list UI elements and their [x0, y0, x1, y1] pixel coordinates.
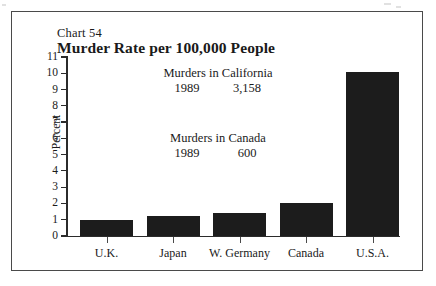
y-axis-tick-label: 2 — [38, 197, 58, 209]
y-axis-tick-label: 6 — [38, 132, 58, 144]
y-axis-tick-text: 9 — [38, 84, 58, 96]
y-axis-tick-label: 7 — [38, 116, 58, 128]
x-axis-tick — [373, 237, 374, 243]
y-axis-tick-text: 11 — [38, 51, 58, 63]
bar-japan — [147, 216, 200, 236]
bar-u-s-a — [346, 72, 399, 236]
scan-artifact — [2, 4, 6, 6]
y-axis-tick-text: 1 — [38, 214, 58, 226]
y-axis-tick — [61, 121, 67, 122]
y-axis-tick-label: 4 — [38, 165, 58, 177]
y-axis-tick-label: 0 — [38, 230, 58, 242]
annotation-canada-heading: Murders in Canada — [148, 131, 288, 146]
y-axis-tick — [61, 89, 67, 90]
y-axis-tick-label: 10 — [38, 67, 58, 79]
y-axis-tick — [61, 73, 67, 74]
y-axis-tick-text: 3 — [38, 181, 58, 193]
x-axis-label: U.S.A. — [356, 246, 389, 261]
annotation-california-value: 3,158 — [216, 81, 278, 96]
x-axis-label: Canada — [288, 246, 324, 261]
y-axis-tick-label: 8 — [38, 100, 58, 112]
scan-artifact — [396, 6, 401, 8]
x-axis-label: U.K. — [95, 246, 118, 261]
y-axis-tick-text: 10 — [38, 67, 58, 79]
y-axis-tick — [61, 235, 67, 236]
bar-u-k — [80, 220, 133, 236]
annotation-canada-value: 600 — [216, 146, 278, 161]
x-axis-tick — [240, 237, 241, 243]
y-axis-tick-label: 3 — [38, 181, 58, 193]
annotation-canada: Murders in Canada 1989600 — [148, 131, 288, 161]
y-axis-tick — [61, 56, 67, 57]
annotation-california-heading: Murders in California — [148, 66, 288, 81]
y-axis-tick-label: 5 — [38, 149, 58, 161]
y-axis-tick-text: 6 — [38, 132, 58, 144]
y-axis-tick — [61, 219, 67, 220]
page-title: Murder Rate per 100,000 People — [57, 39, 275, 57]
y-axis-tick — [61, 105, 67, 106]
y-axis-tick-text: 8 — [38, 100, 58, 112]
y-axis-tick-label: 1 — [38, 214, 58, 226]
bar-w-germany — [213, 213, 266, 236]
y-axis-tick-text: 4 — [38, 165, 58, 177]
y-axis-tick — [61, 203, 67, 204]
bar-canada — [280, 203, 333, 236]
y-axis-tick-label: 9 — [38, 84, 58, 96]
x-axis-label: Japan — [159, 246, 186, 261]
y-axis-tick-label: 11 — [38, 51, 58, 63]
y-axis-tick — [61, 187, 67, 188]
annotation-california-year: 1989 — [158, 81, 216, 96]
annotation-california: Murders in California 19893,158 — [148, 66, 288, 96]
x-axis-tick — [306, 237, 307, 243]
annotation-canada-year: 1989 — [158, 146, 216, 161]
scan-artifact — [384, 3, 391, 5]
y-axis-tick — [61, 154, 67, 155]
y-axis-tick-text: 2 — [38, 197, 58, 209]
x-axis-tick — [173, 237, 174, 243]
annotation-canada-row: 1989600 — [148, 146, 288, 161]
y-axis-line — [66, 56, 68, 237]
y-axis-tick-text: 7 — [38, 116, 58, 128]
y-axis-tick — [61, 138, 67, 139]
x-axis-label: W. Germany — [209, 246, 270, 261]
y-axis-tick-text: 5 — [38, 149, 58, 161]
y-axis-tick-text: 0 — [38, 230, 58, 242]
annotation-california-row: 19893,158 — [148, 81, 288, 96]
x-axis-tick — [107, 237, 108, 243]
y-axis-tick — [61, 170, 67, 171]
